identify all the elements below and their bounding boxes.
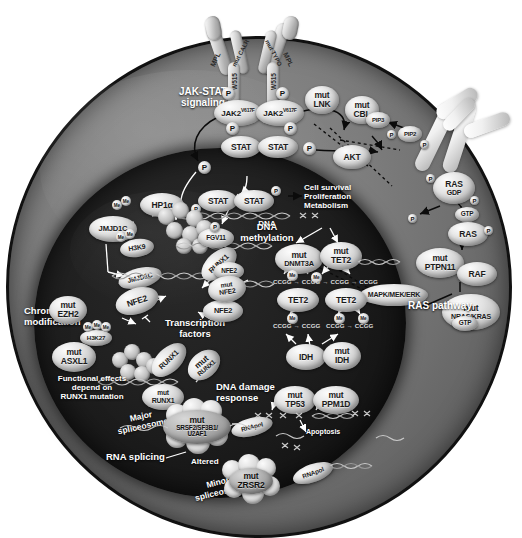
node-nfe2-c[interactable]: NFE2 — [203, 300, 243, 322]
node-mut-dnmt3a[interactable]: mut DNMT3A — [275, 244, 323, 274]
runx1-note-line3: RUNX1 mutation — [40, 393, 144, 402]
phospho-ras-a: P — [426, 174, 435, 183]
node-tet2-b[interactable]: TET2 — [325, 288, 367, 312]
label-rna-splicing: RNA splicing — [106, 452, 186, 463]
label-apoptosis: Apoptosis — [306, 428, 362, 436]
node-ras-gdp[interactable]: RAS GDP — [433, 172, 475, 204]
node-stat-dna-right[interactable]: STAT — [234, 190, 274, 212]
phospho-jak-left: P — [222, 87, 235, 100]
node-pip3[interactable]: PIP3 — [366, 112, 390, 128]
ccgg-6: CCGG — [302, 322, 321, 329]
phospho-ras-b: P — [470, 196, 479, 205]
phospho-stat-dna-right: P — [271, 186, 281, 196]
node-gtp-free[interactable]: GTP — [455, 207, 479, 222]
jak2-left-label: JAK2 — [221, 109, 241, 118]
figure-canvas: MPL MPL mut CALR mut TYPO W515 W515 — [0, 0, 522, 538]
ccgg-7: CCGG — [326, 322, 345, 329]
methyl-h3k9-b: Me — [125, 229, 135, 239]
tf-line2: factors — [148, 329, 242, 340]
label-runx1-note: Functional effects depend on RUNX1 mutat… — [40, 375, 144, 402]
jak2-right-label: JAK2 — [263, 109, 283, 118]
receptor-w515-right-label: W515 — [270, 73, 277, 90]
node-mut-tet2[interactable]: mut TET2 — [320, 242, 362, 270]
phospho-stat-cyto: P — [303, 142, 316, 155]
mut-ppm1d-line2: PPM1D — [322, 400, 350, 409]
label-cell-outcome: Cell survival Proliferation Metabolism — [304, 184, 382, 211]
ccgg-row-1: CCGG→ CCGG→ CCGG→ CCGG — [273, 278, 378, 285]
mut-lnk-line2: LNK — [314, 100, 331, 109]
phospho-pip-a: P — [387, 130, 396, 139]
phospho-jak-right: P — [276, 87, 289, 100]
node-ras-gtp[interactable]: RAS — [448, 222, 488, 246]
node-nras-gtp[interactable]: GTP — [452, 316, 478, 331]
mut-asxl1-line2: ASXL1 — [61, 357, 87, 366]
phospho-jak2-right-lower: P — [284, 122, 297, 135]
ccgg-8: CCGG — [355, 322, 374, 329]
ccgg-2: CCGG — [302, 278, 321, 285]
node-stat-dna-left[interactable]: STAT — [198, 190, 238, 212]
methyl-h3k27-c: Me — [101, 322, 111, 332]
node-mut-tp53[interactable]: mut TP53 — [274, 386, 316, 414]
node-mut-asxl1[interactable]: mut ASXL1 — [52, 342, 96, 372]
methyl-top-b: Me — [121, 196, 131, 206]
mut-srsf2-line3: U2AF1 — [187, 431, 206, 438]
ccgg-3: CCGG — [331, 278, 350, 285]
jak2-right-sup: V617F — [283, 107, 297, 113]
phospho-ras-d: P — [484, 226, 493, 235]
ccgg-1: CCGG — [273, 278, 292, 285]
mut-dnmt3a-line2: DNMT3A — [284, 260, 314, 268]
ras-gdp-line2: GDP — [447, 189, 462, 196]
node-stat-cyto-right[interactable]: STAT — [258, 136, 298, 158]
node-jak2-right[interactable]: JAK2V617F — [256, 100, 304, 126]
outcome-line3: Metabolism — [304, 202, 382, 211]
phospho-fgv11: P — [210, 222, 220, 232]
node-mut-ezh2[interactable]: mut EZH2 — [49, 296, 87, 324]
node-mut-ppm1d[interactable]: mut PPM1D — [313, 386, 359, 414]
node-idh[interactable]: IDH — [286, 344, 326, 370]
node-mut-lnk[interactable]: mut LNK — [305, 86, 339, 114]
mut-ezh2-line2: EZH2 — [58, 310, 79, 319]
mut-idh-line2: IDH — [335, 356, 349, 365]
node-jak2-left[interactable]: JAK2V617F — [214, 100, 262, 126]
mut-nfe2-line2: NFE2 — [219, 288, 236, 297]
label-dna-methylation: DNA methylation — [236, 222, 298, 243]
mut-zrsr2-line2: ZRSR2 — [238, 481, 265, 490]
node-stat-cyto-left[interactable]: STAT — [221, 136, 261, 158]
node-raf[interactable]: RAF — [457, 262, 497, 286]
node-mut-zrsr2[interactable]: mut ZRSR2 — [229, 468, 273, 494]
runx1-low-line2: RUNX1 — [152, 397, 175, 404]
phospho-stat-free: P — [198, 161, 211, 174]
phospho-pip-b: P — [420, 140, 429, 149]
ccgg-5: CCGG — [273, 322, 292, 329]
node-tet2-a[interactable]: TET2 — [277, 288, 319, 312]
ccgg-4: CCGG — [359, 278, 378, 285]
dna-meth-line2: methylation — [236, 233, 298, 244]
node-mut-srsf2-sf3b1-u2af1[interactable]: mut SRSF2/SF3B1/ U2AF1 — [163, 410, 231, 444]
mut-tp53-line2: TP53 — [285, 400, 305, 409]
node-akt[interactable]: AKT — [333, 145, 371, 169]
mut-ptpn11-line2: PTPN11 — [425, 263, 455, 272]
mut-tet2-line2: TET2 — [331, 256, 351, 265]
label-ras-pathway: RAS pathway — [392, 300, 488, 311]
node-pip2[interactable]: PIP2 — [398, 126, 422, 142]
runx1-low-line1: mut — [157, 390, 169, 397]
node-mut-idh[interactable]: mut IDH — [323, 342, 361, 370]
phospho-jak2-left-lower: P — [226, 122, 239, 135]
ras-gdp-line1: RAS — [445, 180, 462, 189]
phospho-ras-c: P — [408, 214, 417, 223]
ccgg-row-2: CCGG→ CCGG CCGG→ CCGG — [273, 322, 373, 329]
jak2-left-sup: V617F — [241, 107, 255, 113]
